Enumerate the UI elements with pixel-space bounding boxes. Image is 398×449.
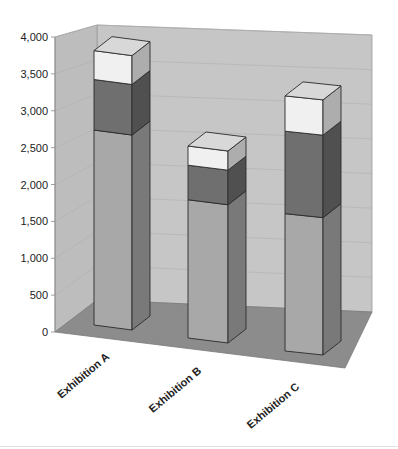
y-tick-label: 3,000: [20, 105, 48, 117]
side-wall: [55, 25, 97, 332]
bar-segment-side: [132, 121, 150, 330]
bar-segment-front: [285, 96, 323, 135]
bar-exhibition-c: [285, 82, 341, 355]
x-category-label: Exhibition B: [146, 364, 203, 414]
x-axis: Exhibition AExhibition BExhibition C: [55, 350, 302, 430]
bar-segment-side: [323, 121, 341, 217]
y-tick-label: 2,000: [20, 179, 48, 191]
x-category-label: Exhibition C: [244, 380, 301, 430]
y-tick-label: 1,000: [20, 252, 48, 264]
y-tick-label: 4,000: [20, 31, 48, 43]
y-tick-label: 2,500: [20, 142, 48, 154]
y-tick-label: 3,500: [20, 68, 48, 80]
bar-exhibition-b: [188, 132, 246, 343]
stacked-3d-column-chart: 05001,0001,5002,0002,5003,0003,5004,000 …: [0, 0, 398, 449]
bar-segment-front: [188, 165, 228, 205]
y-tick-label: 0: [42, 326, 48, 338]
bar-exhibition-a: [94, 37, 150, 330]
bar-segment-side: [323, 204, 341, 355]
bar-segment-front: [188, 200, 228, 343]
y-tick-label: 500: [30, 289, 48, 301]
bar-segment-front: [94, 51, 132, 85]
bar-segment-front: [285, 214, 323, 355]
bar-segment-side: [228, 191, 246, 343]
bar-segment-front: [94, 130, 132, 330]
bottom-divider: [0, 446, 398, 447]
y-axis: 05001,0001,5002,0002,5003,0003,5004,000: [20, 31, 55, 338]
bar-segment-front: [285, 131, 323, 217]
x-category-label: Exhibition A: [55, 350, 112, 400]
y-tick-label: 1,500: [20, 215, 48, 227]
bar-segment-front: [94, 80, 132, 136]
